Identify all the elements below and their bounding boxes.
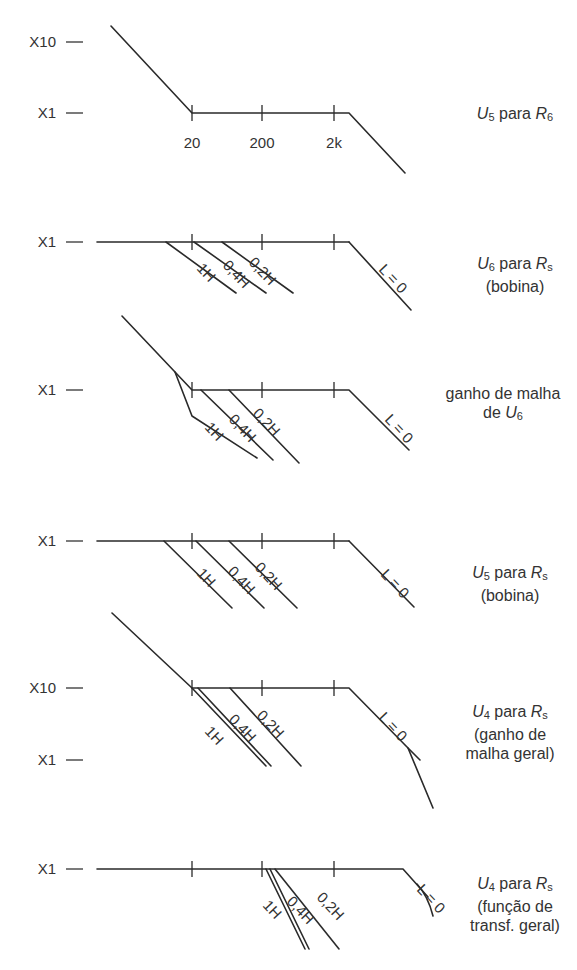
inductance-label: 0,4H (284, 892, 318, 927)
caption-line: (função de (450, 897, 577, 916)
inductance-label: 1H (202, 418, 228, 444)
panel-loop-gain-u6: X11H0,4H0,2HL = 0 (38, 316, 417, 463)
y-axis-label: X10 (29, 33, 56, 50)
inductance-label: 0,2H (314, 888, 348, 923)
y-axis-label: X1 (38, 233, 56, 250)
inductance-label: L = 0 (378, 565, 413, 601)
panel-caption: ganho de malhade U6 (438, 384, 568, 426)
frequency-label: 2k (326, 134, 342, 151)
panel-u5-rs: X11H0,4H0,2HL = 0 (38, 532, 414, 608)
caption-line: (ganho de (445, 725, 575, 744)
y-axis-label: X10 (29, 679, 56, 696)
panel-caption: U5 para Rs(bobina) (445, 563, 575, 605)
y-axis-label: X1 (38, 104, 56, 121)
y-axis-label: X1 (38, 860, 56, 877)
inductance-label: 0,2H (252, 558, 286, 593)
inductance-label: 1H (202, 722, 228, 748)
inductance-label: 1H (194, 564, 220, 590)
asymptote-plots: X10X1202002kX11H0,4H0,2HL = 0X11H0,4H0,2… (0, 0, 577, 970)
caption-line: malha geral) (445, 744, 575, 763)
asymptote-line (408, 748, 433, 808)
asymptote-line (112, 613, 420, 760)
bode-diagram-stack: X10X1202002kX11H0,4H0,2HL = 0X11H0,4H0,2… (0, 0, 577, 970)
caption-line: U4 para Rs (450, 874, 577, 897)
panel-u6-rs: X11H0,4H0,2HL = 0 (38, 233, 411, 310)
panel-u4-rs-loop: X10X11H0,4H0,2HL = 0 (29, 613, 433, 808)
caption-line: transf. geral) (450, 916, 577, 935)
y-axis-label: X1 (38, 751, 56, 768)
panel-u4-rs-transfer: X11H0,4H0,2HL = 0 (38, 860, 449, 949)
y-axis-label: X1 (38, 532, 56, 549)
panel-caption: U4 para Rs(função detransf. geral) (450, 874, 577, 935)
inductance-label: 0,2H (254, 706, 288, 741)
panel-caption: U5 para R6 (450, 104, 577, 127)
frequency-label: 20 (184, 134, 201, 151)
caption-line: U5 para R6 (450, 104, 577, 127)
frequency-label: 200 (249, 134, 274, 151)
inductance-label: 1H (194, 259, 220, 285)
inductance-label: L = 0 (376, 708, 411, 744)
caption-line: U6 para Rs (450, 254, 577, 277)
y-axis-label: X1 (38, 381, 56, 398)
caption-line: (bobina) (445, 586, 575, 605)
caption-line: (bobina) (450, 277, 577, 296)
caption-line: U5 para Rs (445, 563, 575, 586)
caption-line: ganho de malha (438, 384, 568, 403)
panel-caption: U4 para Rs(ganho demalha geral) (445, 702, 575, 763)
panel-caption: U6 para Rs(bobina) (450, 254, 577, 296)
panel-u5-r6: X10X1202002k (29, 26, 405, 173)
caption-line: de U6 (438, 403, 568, 426)
caption-line: U4 para Rs (445, 702, 575, 725)
